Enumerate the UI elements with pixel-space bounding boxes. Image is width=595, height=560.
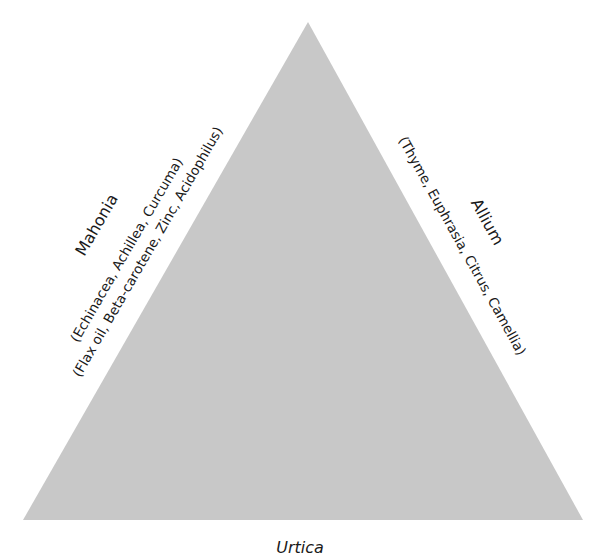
triangle-diagram (0, 0, 595, 560)
bottom-side-title: Urtica (276, 540, 324, 556)
